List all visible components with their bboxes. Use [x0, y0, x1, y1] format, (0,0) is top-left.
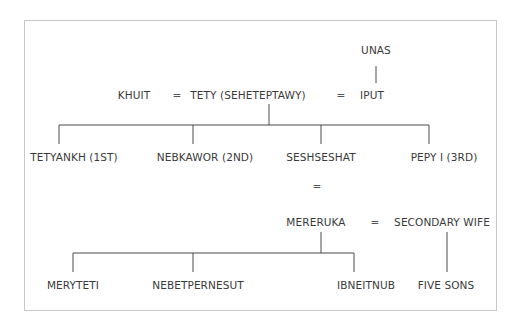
group-five-sons: FIVE SONS	[418, 279, 475, 291]
person-meryteti: MERYTETI	[47, 279, 99, 291]
person-secondary-wife: SECONDARY WIFE	[394, 216, 490, 228]
person-ibneitnub: IBNEITNUB	[337, 279, 395, 291]
person-seshseshat: SESHSESHAT	[286, 151, 356, 163]
marriage-symbol-seshseshat-mereruka: =	[313, 180, 322, 192]
person-nebetpernesut: NEBETPERNESUT	[152, 279, 244, 291]
person-mereruka: MERERUKA	[286, 216, 345, 228]
person-nebkawor: NEBKAWOR (2ND)	[157, 151, 254, 163]
person-iput: IPUT	[360, 89, 384, 101]
marriage-symbol-tety-iput: =	[337, 89, 346, 101]
person-unas: UNAS	[361, 44, 391, 56]
person-khuit: KHUIT	[118, 89, 150, 101]
marriage-symbol-khuit-tety: =	[173, 89, 182, 101]
person-tetyankh: TETYANKH (1ST)	[30, 151, 118, 163]
marriage-symbol-mereruka-wife: =	[371, 216, 380, 228]
person-pepy-i: PEPY I (3RD)	[411, 151, 478, 163]
person-tety: TETY (SEHETEPTAWY)	[190, 89, 305, 101]
